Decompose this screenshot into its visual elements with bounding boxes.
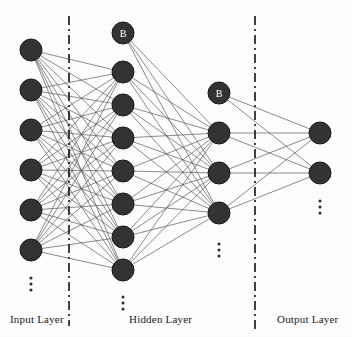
connection-edge: [131, 181, 212, 262]
connection-edge: [36, 100, 118, 260]
connection-edge: [37, 114, 117, 240]
neuron-node[interactable]: [20, 79, 42, 101]
ellipsis-output: [319, 200, 322, 215]
bias-node-label: B: [216, 88, 223, 99]
connection-edge: [42, 131, 112, 137]
ellipsis-input: [30, 277, 33, 292]
connection-edge: [229, 97, 310, 129]
connection-edge: [129, 42, 213, 164]
neuron-node[interactable]: [208, 202, 230, 224]
neuron-node[interactable]: [112, 127, 134, 149]
connection-edge: [129, 142, 212, 261]
network-nodes: BB: [20, 22, 331, 281]
neuron-node[interactable]: [309, 162, 331, 184]
neuron-node[interactable]: [208, 122, 230, 144]
neural-network-diagram: BB Input Layer Hidden Layer Output Layer: [0, 0, 352, 337]
connection-edge: [39, 58, 115, 131]
neuron-node[interactable]: [112, 94, 134, 116]
network-canvas: BB: [0, 0, 352, 337]
ellipsis-hidden1: [122, 296, 125, 311]
neuron-node[interactable]: [208, 162, 230, 184]
connection-edge: [134, 216, 209, 235]
connection-edge: [130, 141, 211, 229]
connection-edge: [42, 53, 113, 70]
connection-edge: [132, 219, 209, 265]
connection-edge: [42, 170, 112, 171]
ellipsis-hidden2: [218, 243, 221, 258]
connection-edge: [229, 177, 310, 209]
input-layer-label: Input Layer: [10, 313, 64, 325]
neuron-node[interactable]: [309, 122, 331, 144]
connection-edge: [133, 137, 209, 167]
hidden-layer-label: Hidden Layer: [129, 313, 192, 325]
neuron-node[interactable]: [20, 199, 42, 221]
connection-edge: [133, 142, 208, 169]
neuron-node[interactable]: [112, 193, 134, 215]
neuron-node[interactable]: [20, 159, 42, 181]
neuron-node[interactable]: [20, 239, 42, 261]
connection-edge: [134, 134, 208, 138]
neuron-node[interactable]: [20, 119, 42, 141]
connection-edge: [134, 205, 208, 212]
connection-edges: [35, 41, 311, 268]
neuron-node[interactable]: [112, 259, 134, 281]
neuron-node[interactable]: [20, 39, 42, 61]
connection-edge: [131, 41, 212, 125]
bias-node-label: B: [120, 28, 127, 39]
connection-edge: [40, 176, 114, 230]
neuron-node[interactable]: [112, 61, 134, 83]
connection-edge: [40, 111, 114, 163]
neuron-node[interactable]: [112, 226, 134, 248]
connection-edge: [133, 175, 209, 208]
output-layer-label: Output Layer: [277, 313, 338, 325]
connection-edge: [132, 179, 210, 231]
neuron-node[interactable]: [112, 160, 134, 182]
connection-edge: [42, 252, 113, 267]
